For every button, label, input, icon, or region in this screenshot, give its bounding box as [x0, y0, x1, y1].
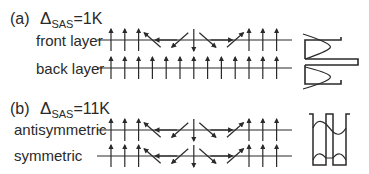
back-layer-density-curve — [303, 67, 330, 89]
layer-density-profile — [303, 34, 358, 89]
barrier — [305, 59, 358, 65]
front-layer-well — [305, 37, 341, 59]
symmetric-wavefunction — [313, 154, 346, 160]
antisymmetric-wavefunction — [313, 121, 346, 134]
wavefunction-profile — [309, 114, 350, 165]
front-layer-density-curve — [303, 34, 330, 59]
spin-diagram — [0, 0, 369, 174]
